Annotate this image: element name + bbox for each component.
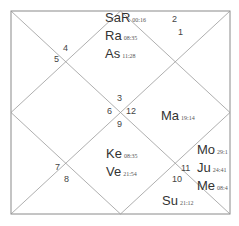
planet-degree: 08:4 — [217, 185, 228, 191]
planet-ma: Ma19:14 — [161, 108, 195, 126]
planet-degree: 08:35 — [124, 35, 138, 41]
planet-group-house-12: Ma19:14 — [161, 108, 195, 126]
planet-as: As11:28 — [105, 46, 146, 64]
house-number-2: 2 — [172, 14, 177, 24]
planet-ve: Ve21:54 — [106, 164, 138, 182]
house-number-11: 11 — [181, 163, 190, 173]
planet-group-house-11: Mo29:1Ju24:41Me08:4 — [197, 142, 228, 196]
house-number-4: 4 — [63, 43, 68, 53]
planet-sar: SaR00:16 — [105, 10, 146, 28]
planet-ke: Ke08:35 — [106, 146, 138, 164]
planet-degree: 19:14 — [181, 115, 195, 121]
planet-degree: 21:54 — [123, 171, 137, 177]
planet-degree: 21:12 — [180, 200, 194, 206]
planet-degree: 00:16 — [132, 17, 146, 23]
planet-group-house-9: Ke08:35Ve21:54 — [106, 146, 138, 182]
house-number-9: 9 — [117, 119, 122, 129]
planet-name: Su — [162, 193, 178, 208]
planet-name: Ma — [161, 108, 179, 123]
planet-su: Su21:12 — [162, 193, 194, 211]
planet-name: Me — [197, 178, 215, 193]
planet-ju: Ju24:41 — [197, 160, 228, 178]
planet-degree: 29:1 — [217, 149, 228, 155]
planet-group-house-1: SaR00:16Ra08:35As11:28 — [105, 10, 146, 64]
house-number-7: 7 — [55, 162, 60, 172]
planet-me: Me08:4 — [197, 178, 228, 196]
planet-ra: Ra08:35 — [105, 28, 146, 46]
planet-group-house-10: Su21:12 — [162, 193, 194, 211]
house-number-1: 1 — [178, 27, 183, 37]
house-number-5: 5 — [54, 54, 59, 64]
house-number-6: 6 — [107, 106, 112, 116]
planet-degree: 24:41 — [213, 167, 227, 173]
planet-name: Mo — [197, 142, 215, 157]
planet-name: SaR — [105, 10, 130, 25]
planet-name: As — [105, 46, 120, 61]
planet-mo: Mo29:1 — [197, 142, 228, 160]
planet-degree: 11:28 — [122, 53, 135, 59]
planet-name: Ju — [197, 160, 211, 175]
planet-name: Ve — [106, 164, 121, 179]
house-number-10: 10 — [172, 174, 182, 184]
planet-name: Ra — [105, 28, 122, 43]
planet-degree: 08:35 — [124, 153, 138, 159]
house-number-12: 12 — [126, 106, 136, 116]
house-number-8: 8 — [64, 174, 69, 184]
planet-name: Ke — [106, 146, 122, 161]
house-number-3: 3 — [117, 93, 122, 103]
